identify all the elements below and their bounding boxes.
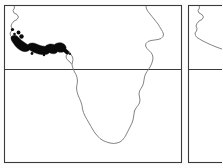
figure-root xyxy=(0,0,222,168)
panel-right-frame xyxy=(189,6,223,163)
range-dot-upper-d xyxy=(13,33,16,36)
range-dot-south-b xyxy=(43,54,45,56)
range-dot-south-a xyxy=(31,52,34,55)
range-dot-upper-b xyxy=(17,31,21,35)
panel-left xyxy=(5,5,182,163)
map-figure-svg xyxy=(0,0,222,168)
range-dot-east-a xyxy=(69,53,71,55)
range-dot-upper-a xyxy=(11,28,14,31)
panel-right xyxy=(189,5,223,163)
panel-left-frame xyxy=(5,6,182,163)
range-dot-upper-c xyxy=(19,34,23,38)
